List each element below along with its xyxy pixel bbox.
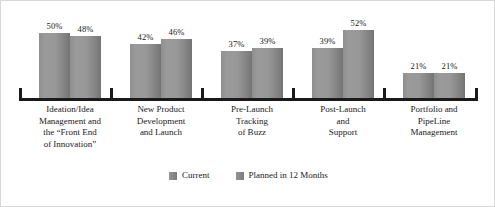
plot-area: 50% 48% 42% 46% 37% — [1, 1, 495, 101]
bar-current[interactable] — [403, 73, 434, 101]
category-label-line: Management — [379, 127, 489, 139]
legend-item-current[interactable]: Current — [169, 171, 210, 180]
bar-planned[interactable] — [252, 48, 283, 101]
bar-value-label: 42% — [138, 33, 154, 42]
bar-value-label: 52% — [351, 19, 367, 28]
bar-value-label: 39% — [320, 37, 336, 46]
bar-current[interactable] — [39, 33, 70, 101]
axis-tick — [292, 88, 295, 101]
bar-column[interactable]: 39% — [252, 1, 283, 101]
bar-column[interactable]: 42% — [130, 1, 161, 101]
category-label-line: Portfolio and — [379, 104, 489, 116]
bar-value-label: 21% — [442, 62, 458, 71]
bar-current[interactable] — [130, 44, 161, 101]
bar-value-label: 39% — [260, 37, 276, 46]
bar-column[interactable]: 39% — [312, 1, 343, 101]
legend-item-planned[interactable]: Planned in 12 Months — [236, 171, 328, 180]
category-label-line: PipeLine — [379, 116, 489, 128]
bar-planned[interactable] — [343, 30, 374, 101]
bar-column[interactable]: 37% — [221, 1, 252, 101]
bar-column[interactable]: 52% — [343, 1, 374, 101]
bar-group: 50% 48% — [35, 1, 105, 101]
legend-label: Planned in 12 Months — [249, 171, 328, 180]
bar-planned[interactable] — [434, 73, 465, 101]
category-label-line: of Innovation” — [15, 139, 125, 151]
bar-column[interactable]: 48% — [70, 1, 101, 101]
category-label: Portfolio and PipeLine Management — [379, 104, 489, 139]
axis-tick — [19, 88, 22, 101]
bar-group: 37% 39% — [217, 1, 287, 101]
legend-swatch-icon — [236, 172, 244, 180]
grouped-bar-chart: 50% 48% 42% 46% 37% — [0, 0, 495, 207]
bar-column[interactable]: 50% — [39, 1, 70, 101]
axis-tick — [201, 88, 204, 101]
bar-group: 39% 52% — [308, 1, 378, 101]
bar-value-label: 37% — [229, 40, 245, 49]
bar-value-label: 50% — [47, 22, 63, 31]
axis-tick — [475, 88, 478, 101]
category-axis-labels: Ideation/Idea Management and the “Front … — [1, 104, 495, 158]
chart-legend: Current Planned in 12 Months — [1, 171, 495, 180]
bar-group: 21% 21% — [399, 1, 469, 101]
axis-tick — [110, 88, 113, 101]
bar-value-label: 46% — [169, 28, 185, 37]
legend-label: Current — [182, 171, 210, 180]
axis-baseline — [19, 98, 478, 101]
bar-planned[interactable] — [161, 39, 192, 101]
bar-column[interactable]: 21% — [434, 1, 465, 101]
bar-current[interactable] — [312, 48, 343, 101]
legend-swatch-icon — [169, 172, 177, 180]
bar-value-label: 21% — [411, 62, 427, 71]
bar-current[interactable] — [221, 51, 252, 101]
bar-group: 42% 46% — [126, 1, 196, 101]
bar-value-label: 48% — [78, 25, 94, 34]
axis-tick — [383, 88, 386, 101]
bar-column[interactable]: 21% — [403, 1, 434, 101]
bar-planned[interactable] — [70, 36, 101, 101]
bar-column[interactable]: 46% — [161, 1, 192, 101]
